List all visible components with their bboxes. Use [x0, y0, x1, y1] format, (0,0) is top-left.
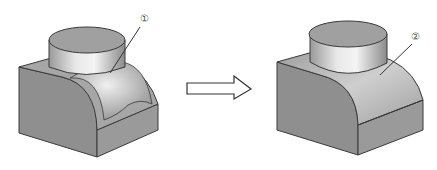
- transform-arrow: [187, 76, 251, 99]
- callout-label-1: ①: [140, 14, 149, 24]
- left-part: [19, 27, 158, 157]
- diagram-svg: [0, 0, 437, 170]
- right-part: [277, 21, 423, 155]
- left-cylinder-top: [49, 27, 125, 53]
- callout-label-2: ②: [411, 32, 420, 42]
- right-cylinder-top: [309, 21, 387, 47]
- diagram-canvas: ① ②: [0, 0, 437, 170]
